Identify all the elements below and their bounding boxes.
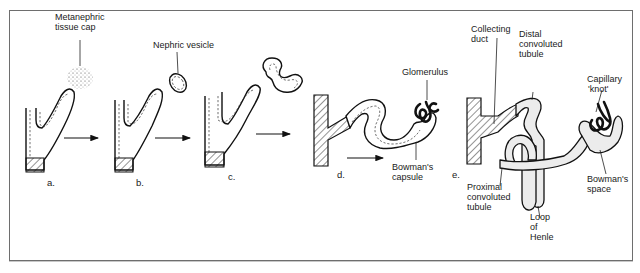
label-distal-convoluted: convoluted xyxy=(519,39,563,49)
collecting-duct-wall-icon xyxy=(314,95,350,166)
label-bowmans-capsule-1: Bowman's xyxy=(392,162,434,172)
label-bowmans-capsule-2: capsule xyxy=(392,172,423,182)
label-of: of xyxy=(530,222,538,232)
label-bowmans-space-1: Bowman's xyxy=(587,174,629,184)
label-knot: 'knot' xyxy=(588,84,609,94)
label-metanephric: Metanephric xyxy=(55,12,105,22)
label-collecting: Collecting xyxy=(471,24,511,34)
nephron-development-diagram: Metanephric tissue cap a. Nephric vesicl… xyxy=(0,0,640,273)
label-bowmans-space-2: space xyxy=(587,184,611,194)
developing-tubule-icon xyxy=(346,100,436,149)
stage-c: c. xyxy=(205,58,302,182)
label-loop: Loop xyxy=(530,212,550,222)
stage-e: Collecting duct Distal convoluted tubule… xyxy=(452,24,629,242)
label-proximal-tubule: tubule xyxy=(467,202,492,212)
ureteric-bud-icon xyxy=(115,89,162,172)
label-capillary: Capillary xyxy=(587,74,623,84)
label-proximal-convoluted: convoluted xyxy=(467,192,511,202)
stage-label-c: c. xyxy=(228,171,235,182)
nephric-vesicle-icon xyxy=(166,71,190,96)
label-glomerulus: Glomerulus xyxy=(402,67,449,77)
leader-line xyxy=(494,38,497,124)
stage-d: Glomerulus Bowman's capsule d. xyxy=(314,67,449,182)
ureteric-bud-icon xyxy=(26,89,74,172)
s-shaped-body-icon xyxy=(263,58,302,92)
label-proximal: Proximal xyxy=(467,182,502,192)
stage-a: Metanephric tissue cap a. xyxy=(26,12,105,188)
label-nephric-vesicle: Nephric vesicle xyxy=(153,40,214,50)
label-distal: Distal xyxy=(519,29,542,39)
stage-label-d: d. xyxy=(337,169,345,180)
stage-label-e: e. xyxy=(452,169,460,180)
stage-b: Nephric vesicle b. xyxy=(115,40,214,188)
label-duct: duct xyxy=(471,34,489,44)
stage-label-b: b. xyxy=(136,177,144,188)
ureteric-bud-icon xyxy=(205,85,260,167)
stage-label-a: a. xyxy=(47,177,55,188)
leader-line xyxy=(177,52,178,73)
diagram-canvas: Metanephric tissue cap a. Nephric vesicl… xyxy=(0,0,640,273)
label-tissue-cap: tissue cap xyxy=(55,22,96,32)
metanephric-tissue-cap-icon xyxy=(67,67,93,89)
label-henle: Henle xyxy=(530,232,554,242)
label-distal-tubule: tubule xyxy=(519,49,544,59)
leader-line xyxy=(600,150,606,174)
